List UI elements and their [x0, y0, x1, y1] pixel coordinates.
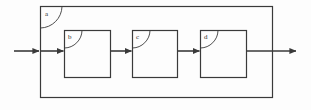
block-diagram-canvas: a b c d — [0, 0, 311, 110]
inner-block-c: c — [133, 31, 178, 78]
outer-block-a-rect — [41, 7, 273, 98]
inner-block-c-label: c — [136, 33, 139, 41]
inner-block-b-label: b — [68, 33, 72, 41]
inner-block-c-rect — [133, 31, 178, 78]
outer-block-a: a — [41, 7, 273, 98]
inner-block-b: b — [65, 31, 111, 78]
outer-block-a-leader-arc — [41, 7, 63, 29]
outer-block-a-label: a — [45, 10, 49, 18]
diagram-svg: a b c d — [0, 0, 311, 110]
inner-block-d: d — [201, 31, 247, 78]
inner-block-d-label: d — [204, 33, 208, 41]
